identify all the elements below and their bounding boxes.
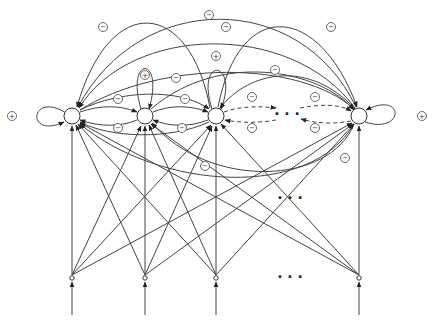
input-node-4 (357, 276, 361, 280)
sign-minus: − (249, 124, 255, 132)
input-node-3 (214, 276, 218, 280)
sign-plus-n3-loop: + (213, 53, 219, 61)
input-fanout-i4 (80, 123, 359, 275)
recurrent-network-diagram: + + + + − − − − − − − − − − − − − − − − … (0, 0, 434, 323)
sign-minus: − (312, 124, 318, 132)
neuron-4 (351, 108, 367, 124)
input-fanout-i1 (72, 123, 352, 275)
ellipsis-between-inputs: · · · (277, 269, 303, 285)
sign-minus: − (342, 154, 348, 162)
sign-minus: − (115, 95, 121, 103)
edge-n4-to-ellipsis-dashed (301, 119, 351, 123)
input-fanout-i2 (76, 124, 353, 275)
edge-n1-to-n2-top (80, 107, 137, 112)
edge-n4-to-n3 (220, 76, 355, 109)
self-loop-n4 (365, 105, 395, 125)
sign-minus: − (115, 124, 121, 132)
ellipsis-middle-connections: · · · (277, 190, 303, 206)
edge-n3-to-ellipsis-dashed (224, 107, 276, 112)
sign-minus: − (182, 95, 188, 103)
edge-n1-to-n4 (80, 72, 354, 110)
edge-n3-to-n1 (77, 23, 210, 108)
sign-minus: − (179, 124, 185, 132)
ellipsis-between-neurons: · · · (274, 106, 300, 122)
edge-ellipsis-to-n4-dashed (300, 105, 351, 111)
sign-minus: − (173, 74, 179, 82)
sign-minus: − (328, 23, 334, 31)
sign-minus: − (202, 162, 208, 170)
sign-minus: − (100, 23, 106, 31)
edge-n2-to-n4 (151, 72, 354, 110)
sign-minus: − (272, 66, 278, 74)
sign-plus-n4-loop: + (419, 113, 425, 121)
input-node-1 (70, 276, 74, 280)
sign-plus-n2-loop: + (142, 72, 148, 80)
sign-minus: − (206, 11, 212, 19)
edge-n2-to-n3-top (153, 107, 208, 112)
sign-minus: − (249, 93, 255, 101)
sign-minus: − (312, 93, 318, 101)
neuron-1 (64, 108, 80, 124)
edge-n2-to-n1-bottom (80, 120, 137, 125)
edge-ellipsis-to-n3-dashed (225, 120, 276, 122)
input-fanout-i3 (78, 124, 354, 275)
sign-plus-n1-loop: + (9, 113, 15, 121)
self-loop-n1 (37, 107, 66, 126)
input-node-2 (143, 276, 147, 280)
neuron-2 (137, 108, 153, 124)
sign-minus: − (223, 23, 229, 31)
neuron-3 (208, 108, 224, 124)
